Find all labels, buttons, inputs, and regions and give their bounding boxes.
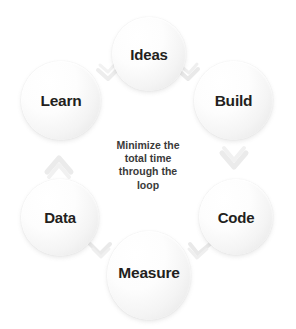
node-build-label: Build — [215, 93, 253, 109]
node-data[interactable]: Data — [21, 179, 99, 256]
build-measure-learn-diagram: Ideas Build Code Measure Data Learn Mini… — [0, 0, 296, 329]
node-learn[interactable]: Learn — [21, 61, 101, 140]
node-ideas[interactable]: Ideas — [112, 17, 186, 91]
arrow-measure-to-data-icon — [90, 244, 110, 257]
node-measure[interactable]: Measure — [107, 231, 191, 320]
center-caption-line-1: Minimize the — [98, 139, 198, 152]
node-measure-label: Measure — [118, 265, 180, 281]
center-caption-line-3: through the — [98, 165, 198, 178]
arrow-build-to-code-icon — [222, 148, 246, 167]
arrow-code-to-measure-icon — [189, 244, 210, 258]
node-build[interactable]: Build — [194, 61, 273, 140]
center-caption-line-4: loop — [98, 179, 198, 192]
center-caption: Minimize the total time through the loop — [98, 139, 198, 192]
node-data-label: Data — [44, 210, 76, 225]
arrow-data-to-learn-icon — [47, 158, 71, 177]
center-caption-line-2: total time — [98, 152, 198, 165]
node-code[interactable]: Code — [199, 179, 273, 255]
node-code-label: Code — [218, 210, 255, 225]
node-ideas-label: Ideas — [130, 47, 167, 62]
node-learn-label: Learn — [40, 93, 81, 109]
